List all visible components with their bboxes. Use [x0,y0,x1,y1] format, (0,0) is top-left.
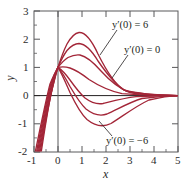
y-tick-label-3: 3 [23,6,29,17]
y-tick-label-0: 0 [23,90,29,101]
x-tick-label-4: 4 [151,155,157,166]
plot-frame [34,11,178,152]
x-tick-label-5: 5 [175,155,181,166]
x-tick-label-0: 0 [55,155,61,166]
annotation-slope-positive-six: y′(0) = 6 [112,20,148,31]
y-tick-label-neg1: -1 [18,118,27,129]
x-tick-label-2: 2 [103,155,109,166]
figure-panel: 3 2 1 0 -1 -2 -1 0 1 2 3 4 5 y x y′(0) =… [0,0,195,187]
x-tick-label-3: 3 [127,155,133,166]
x-tick-label-1: 1 [79,155,85,166]
y-tick-label-neg2: -2 [18,146,27,157]
y-tick-label-1: 1 [23,62,29,73]
x-tick-label-neg1: -1 [27,155,36,166]
x-axis-label: x [103,168,108,180]
annotation-slope-negative-six: y′(0) = −6 [106,136,148,147]
annotation-slope-zero: y′(0) = 0 [124,45,160,56]
y-tick-label-2: 2 [23,34,29,45]
y-axis-label: y [4,72,16,84]
